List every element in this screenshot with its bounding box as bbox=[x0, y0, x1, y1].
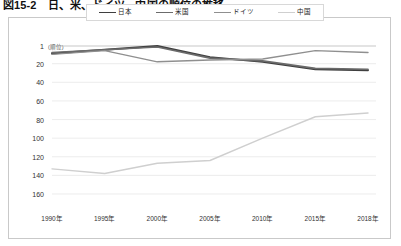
chart-plot-area bbox=[0, 0, 401, 246]
figure-container: 図15-2 日、米、ドイツ、中国の順位の推移 日本米国ドイツ中国 (順位) 12… bbox=[0, 0, 401, 246]
series-line-中国 bbox=[52, 113, 368, 174]
